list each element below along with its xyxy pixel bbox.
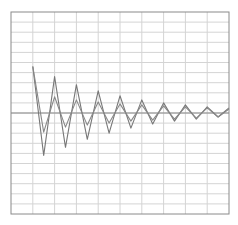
line-chart [0, 0, 238, 225]
